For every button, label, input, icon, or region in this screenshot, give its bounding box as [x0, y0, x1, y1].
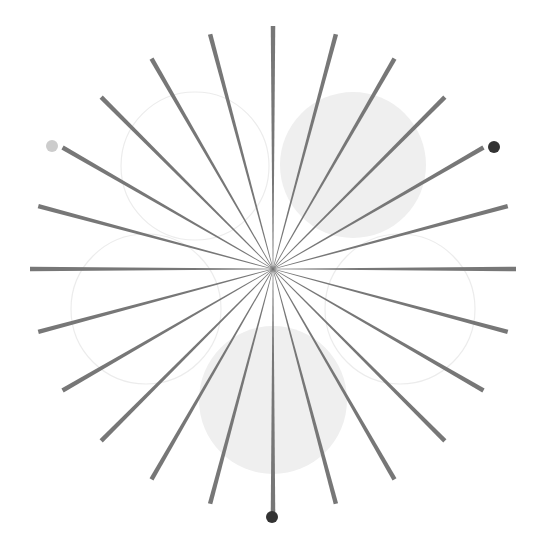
dot-bottom	[266, 511, 278, 523]
ray-270deg	[271, 26, 276, 269]
circle-top-left	[121, 92, 269, 240]
ray-165deg	[38, 269, 273, 334]
ray-15deg	[273, 269, 508, 334]
rays-layer	[30, 26, 516, 512]
circle-right	[325, 234, 475, 384]
circle-left	[71, 234, 221, 384]
starburst-diagram	[0, 0, 543, 540]
ray-0deg	[273, 267, 516, 272]
dot-top-right	[488, 141, 500, 153]
ray-255deg	[208, 34, 273, 269]
ray-195deg	[38, 204, 273, 269]
ray-180deg	[30, 267, 273, 272]
diagram-canvas	[0, 0, 543, 540]
dot-top-left	[46, 140, 58, 152]
